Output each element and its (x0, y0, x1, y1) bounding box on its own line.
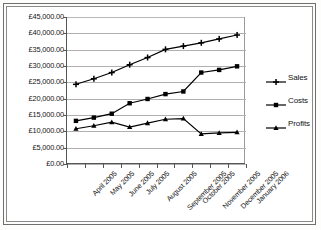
chart-figure: £45,000.00£40,000.00£35,000.00£30,000.00… (0, 0, 321, 230)
data-point-profits (109, 119, 114, 124)
series-line-sales (76, 35, 237, 84)
y-axis-tick-label: £5,000.00 (2, 144, 64, 152)
y-axis-tick-label: £45,000.00 (2, 13, 64, 21)
data-point-costs (92, 115, 96, 119)
square-marker-icon (266, 96, 286, 106)
data-point-sales (216, 36, 222, 42)
x-axis-tick (121, 164, 122, 168)
data-point-sales (162, 46, 168, 52)
data-point-costs (199, 70, 203, 74)
data-point-costs (74, 119, 78, 123)
x-axis-tick (174, 164, 175, 168)
x-axis-tick (85, 164, 86, 168)
data-point-costs (217, 68, 221, 72)
x-axis-tick (139, 164, 140, 168)
x-axis-tick (103, 164, 104, 168)
y-axis-tick-label: £35,000.00 (2, 46, 64, 54)
series-line-profits (76, 119, 237, 134)
data-point-sales (73, 81, 79, 87)
legend-item-sales[interactable]: Sales (266, 66, 316, 89)
data-point-costs (235, 64, 239, 68)
data-point-sales (180, 43, 186, 49)
x-axis-tick (157, 164, 158, 168)
legend-label: Costs (288, 96, 308, 105)
data-point-sales (109, 70, 115, 76)
triangle-marker-icon (266, 119, 286, 129)
y-axis-tick-label: £40,000.00 (2, 29, 64, 37)
data-point-costs (181, 89, 185, 93)
x-axis-tick (210, 164, 211, 168)
x-axis-tick (192, 164, 193, 168)
data-point-costs (145, 97, 149, 101)
y-axis-tick-label: £0.00 (2, 160, 64, 168)
plus-marker-icon (266, 73, 286, 83)
legend-item-profits[interactable]: Profits (266, 112, 316, 135)
series-lines (67, 17, 246, 164)
legend-label: Profits (288, 119, 310, 128)
data-point-sales (234, 32, 240, 38)
x-axis-tick (246, 164, 247, 168)
y-axis-tick-label: £30,000.00 (2, 62, 64, 70)
series-line-costs (76, 66, 237, 121)
legend-label: Sales (288, 73, 308, 82)
data-point-costs (163, 92, 167, 96)
data-point-sales (91, 76, 97, 82)
y-axis-tick-label: £15,000.00 (2, 111, 64, 119)
y-axis-tick-label: £10,000.00 (2, 127, 64, 135)
x-axis-tick (228, 164, 229, 168)
plot-area (66, 17, 245, 164)
data-point-costs (127, 101, 131, 105)
data-point-sales (127, 62, 133, 68)
x-axis-tick (67, 164, 68, 168)
data-point-sales (198, 40, 204, 46)
data-point-sales (145, 55, 151, 61)
legend-item-costs[interactable]: Costs (266, 89, 316, 112)
data-point-costs (110, 111, 114, 115)
chart-legend: SalesCostsProfits (266, 66, 316, 135)
y-axis-tick-label: £20,000.00 (2, 95, 64, 103)
y-axis-tick-label: £25,000.00 (2, 78, 64, 86)
